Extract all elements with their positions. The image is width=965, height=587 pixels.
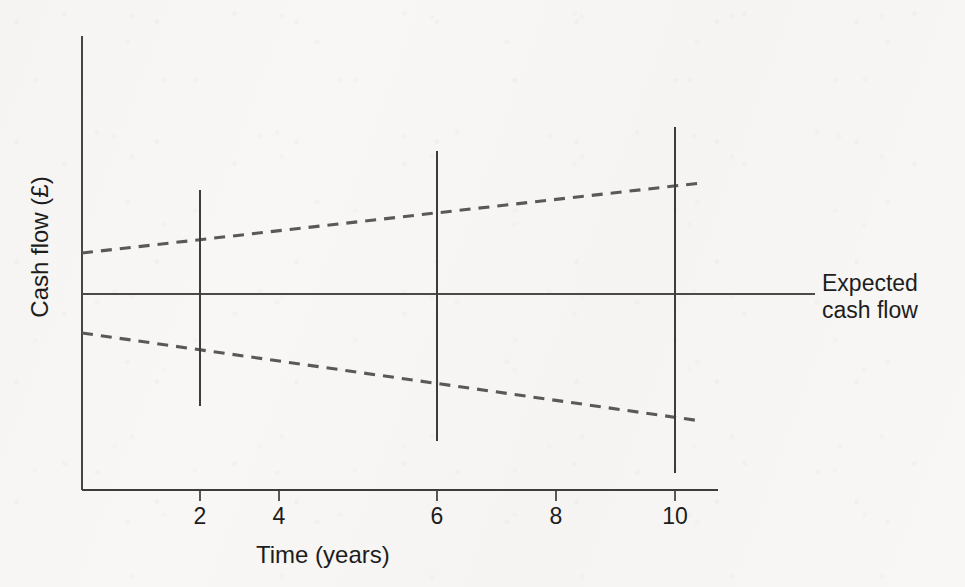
x-tick-label-2: 2: [170, 505, 230, 528]
expected-cash-flow-label: Expected cash flow: [822, 270, 918, 324]
x-tick-label-8: 8: [526, 505, 586, 528]
expected-cash-flow-label-line-1: Expected: [822, 270, 918, 297]
x-axis-title: Time (years): [256, 541, 390, 569]
cash-flow-uncertainty-figure: 2 4 6 8 10 Time (years) Cash flow (£) Ex…: [0, 0, 965, 587]
x-tick-label-4: 4: [249, 505, 309, 528]
y-axis-title: Cash flow (£): [26, 147, 54, 347]
expected-cash-flow-label-line-2: cash flow: [822, 297, 918, 324]
x-tick-label-10: 10: [645, 505, 705, 528]
chart-plot-area: [0, 0, 965, 587]
upper-uncertainty-bound-line: [82, 183, 701, 253]
x-tick-label-6: 6: [407, 505, 467, 528]
lower-uncertainty-bound-line: [82, 333, 701, 421]
